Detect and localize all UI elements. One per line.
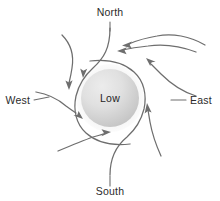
compass-label-north: North xyxy=(97,6,124,18)
arrowhead-east-upper-left xyxy=(117,47,127,54)
compass-west: West xyxy=(5,94,49,106)
compass-north: North xyxy=(97,6,124,31)
streamline-southwest-inflow xyxy=(58,129,111,151)
low-pressure-label: Low xyxy=(100,92,120,104)
compass-east: East xyxy=(171,94,212,106)
arrowhead-east-outer-left xyxy=(122,42,132,49)
leader-west xyxy=(34,97,49,100)
compass-label-west: West xyxy=(5,94,30,106)
compass-south: South xyxy=(96,176,124,197)
wind-circulation-diagram: Low North East South West xyxy=(0,0,220,201)
compass-label-south: South xyxy=(96,185,124,197)
streamline-east-flank-up xyxy=(146,58,196,96)
streamline-northwest-outer xyxy=(62,35,73,90)
compass-label-east: East xyxy=(190,94,212,106)
diagram-canvas: Low North East South West xyxy=(0,0,220,201)
streamline-east-inflow-outer xyxy=(122,35,205,49)
streamline-south-rising-arrow xyxy=(145,103,161,156)
arrowhead-east-flank-up xyxy=(146,58,156,66)
